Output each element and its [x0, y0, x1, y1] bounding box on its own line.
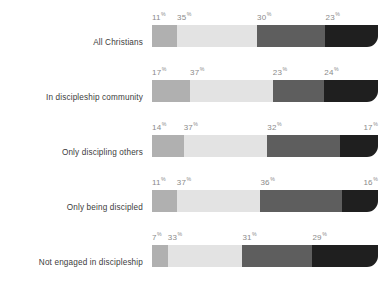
segment-value-label: 37%: [190, 67, 205, 79]
chart-row: In discipleship community17%37%23%24%: [0, 63, 389, 118]
percent-sign: %: [161, 176, 166, 182]
chart-row: Only being discipled11%37%36%16%: [0, 173, 389, 228]
bar-segment: [260, 190, 341, 212]
bar-segment: [342, 190, 378, 212]
row-category-label: Only discipling others: [0, 147, 143, 158]
bar-value-labels: 14%37%32%17%: [152, 122, 378, 134]
row-category-label: Not engaged in discipleship: [0, 257, 143, 268]
bar-segment: [168, 245, 243, 267]
stacked-bar: [152, 25, 378, 47]
percent-sign: %: [322, 231, 327, 237]
bar-segment: [267, 135, 339, 157]
segment-value-label: 17%: [152, 67, 167, 79]
stacked-bar: [152, 80, 378, 102]
percent-sign: %: [178, 231, 183, 237]
segment-value-label: 7%: [152, 232, 162, 244]
segment-value-label: 36%: [260, 177, 275, 189]
bar-segment: [152, 80, 190, 102]
segment-value-number: 11: [152, 13, 161, 22]
segment-value-number: 36: [260, 178, 269, 187]
bar-segment: [152, 190, 177, 212]
segment-value-number: 23: [325, 13, 334, 22]
percent-sign: %: [162, 121, 167, 127]
segment-value-label: 23%: [325, 12, 340, 24]
segment-value-number: 37: [190, 68, 199, 77]
bar-wrapper: 14%37%32%17%: [152, 135, 378, 157]
segment-value-label: 11%: [152, 12, 166, 24]
segment-value-number: 24: [324, 68, 333, 77]
stacked-bar: [152, 245, 378, 267]
segment-value-label: 30%: [257, 12, 272, 24]
segment-value-label: 32%: [267, 122, 282, 134]
bar-segment: [152, 25, 177, 47]
bar-segment: [325, 25, 378, 47]
percent-sign: %: [161, 11, 166, 17]
segment-value-label: 11%: [152, 177, 166, 189]
bar-value-labels: 11%37%36%16%: [152, 177, 378, 189]
chart-row: All Christians11%35%30%23%: [0, 8, 389, 63]
segment-value-number: 37: [184, 123, 193, 132]
percent-sign: %: [283, 66, 288, 72]
percent-sign: %: [334, 66, 339, 72]
bar-segment: [184, 135, 268, 157]
segment-value-number: 33: [168, 233, 177, 242]
bar-segment: [340, 135, 378, 157]
percent-sign: %: [270, 176, 275, 182]
segment-value-number: 32: [267, 123, 276, 132]
bar-segment: [190, 80, 273, 102]
bar-segment: [242, 245, 312, 267]
percent-sign: %: [157, 231, 162, 237]
segment-value-label: 37%: [184, 122, 199, 134]
segment-value-label: 33%: [168, 232, 183, 244]
percent-sign: %: [335, 11, 340, 17]
percent-sign: %: [252, 231, 257, 237]
percent-sign: %: [193, 121, 198, 127]
bar-segment: [324, 80, 378, 102]
percent-sign: %: [277, 121, 282, 127]
percent-sign: %: [187, 11, 192, 17]
row-category-label: Only being discipled: [0, 202, 143, 213]
stacked-bar: [152, 190, 378, 212]
segment-value-number: 16: [363, 178, 372, 187]
segment-value-label: 16%: [363, 177, 378, 189]
segment-value-number: 7: [152, 233, 157, 242]
segment-value-number: 14: [152, 123, 161, 132]
bar-segment: [152, 245, 168, 267]
segment-value-number: 31: [242, 233, 251, 242]
segment-value-number: 37: [177, 178, 186, 187]
bar-segment: [273, 80, 324, 102]
segment-value-label: 23%: [273, 67, 288, 79]
segment-value-number: 17: [152, 68, 161, 77]
percent-sign: %: [187, 176, 192, 182]
percent-sign: %: [200, 66, 205, 72]
segment-value-label: 29%: [312, 232, 327, 244]
percent-sign: %: [162, 66, 167, 72]
segment-value-number: 30: [257, 13, 266, 22]
segment-value-label: 24%: [324, 67, 339, 79]
segment-value-number: 29: [312, 233, 321, 242]
percent-sign: %: [267, 11, 272, 17]
segment-value-number: 23: [273, 68, 282, 77]
segment-value-number: 35: [177, 13, 186, 22]
bar-segment: [177, 25, 257, 47]
bar-segment: [152, 135, 184, 157]
bar-segment: [257, 25, 325, 47]
segment-value-label: 35%: [177, 12, 192, 24]
chart-row: Not engaged in discipleship7%33%31%29%: [0, 228, 389, 283]
bar-value-labels: 11%35%30%23%: [152, 12, 378, 24]
segment-value-label: 31%: [242, 232, 257, 244]
percent-sign: %: [373, 176, 378, 182]
bar-value-labels: 17%37%23%24%: [152, 67, 378, 79]
bar-wrapper: 17%37%23%24%: [152, 80, 378, 102]
segment-value-label: 37%: [177, 177, 192, 189]
stacked-bar: [152, 135, 378, 157]
chart-row: Only discipling others14%37%32%17%: [0, 118, 389, 173]
row-category-label: In discipleship community: [0, 92, 143, 103]
bar-segment: [177, 190, 261, 212]
bar-value-labels: 7%33%31%29%: [152, 232, 378, 244]
segment-value-number: 11: [152, 178, 161, 187]
stacked-bar-chart: All Christians11%35%30%23%In discipleshi…: [0, 0, 389, 300]
bar-wrapper: 11%35%30%23%: [152, 25, 378, 47]
row-category-label: All Christians: [0, 37, 143, 48]
percent-sign: %: [373, 121, 378, 127]
